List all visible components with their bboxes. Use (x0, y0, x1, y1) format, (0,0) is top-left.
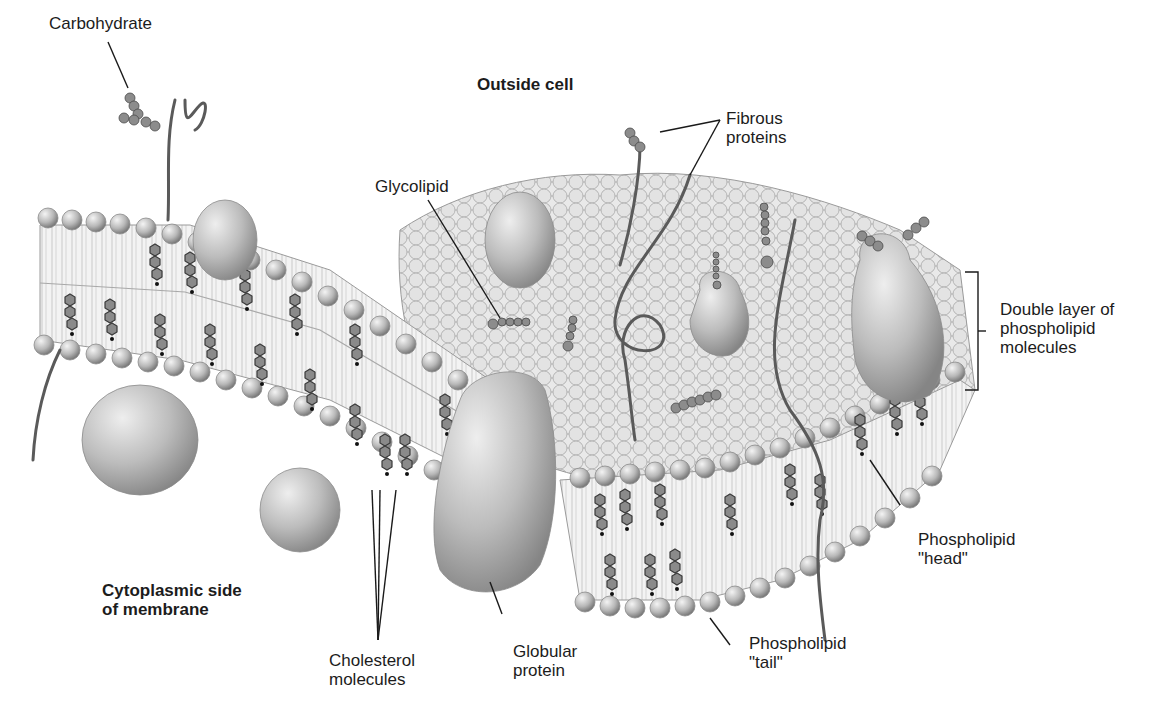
label-cholesterol-molecules: Cholesterol molecules (329, 651, 415, 689)
cholesterol-leader-3 (378, 490, 396, 640)
label-phospholipid-tail: Phospholipid "tail" (749, 634, 846, 672)
label-globular-protein: Globular protein (513, 642, 577, 680)
label-cytoplasmic-side: Cytoplasmic side of membrane (102, 581, 242, 619)
cholesterol-leader-1 (372, 490, 378, 640)
tail-leader (710, 618, 730, 645)
fibrous-leader-1 (660, 120, 720, 132)
cholesterol-leader-2 (378, 490, 380, 640)
label-carbohydrate: Carbohydrate (49, 14, 152, 33)
label-outside-cell: Outside cell (477, 75, 573, 94)
label-glycolipid: Glycolipid (375, 177, 449, 196)
carbohydrate-leader (108, 42, 128, 88)
label-phospholipid-head: Phospholipid "head" (918, 530, 1015, 568)
fibrous-leader-2 (690, 120, 720, 175)
label-double-layer: Double layer of phospholipid molecules (1000, 300, 1114, 357)
label-fibrous-proteins: Fibrous proteins (726, 109, 786, 147)
